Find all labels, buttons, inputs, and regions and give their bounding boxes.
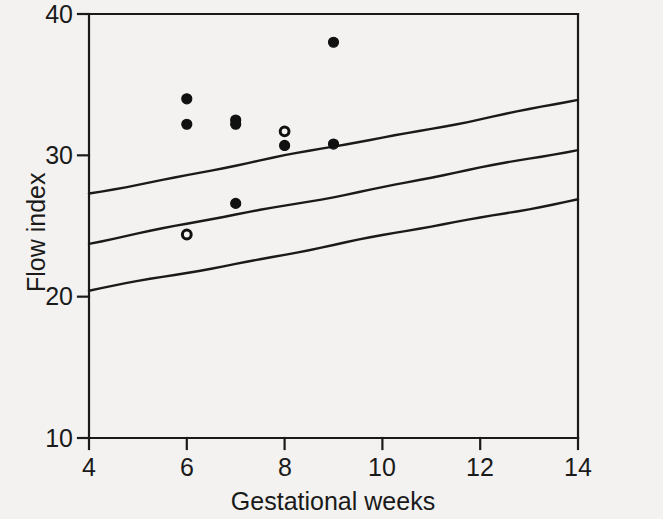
plot-canvas: [0, 0, 663, 519]
data-point-filled: [329, 139, 339, 149]
data-point-filled: [231, 119, 241, 129]
data-point-filled: [182, 119, 192, 129]
x-tick-label-12: 12: [460, 455, 500, 480]
y-tick-label-10: 10: [33, 426, 73, 451]
reference-line-group: [89, 100, 578, 291]
x-axis-title: Gestational weeks: [183, 489, 483, 514]
data-point-filled: [280, 140, 290, 150]
x-tick-label-6: 6: [167, 455, 207, 480]
data-point-open: [182, 230, 191, 239]
reference-line: [89, 150, 578, 244]
data-point-filled: [231, 198, 241, 208]
y-tick-label-40: 40: [33, 2, 73, 27]
y-tick-label-30: 30: [33, 143, 73, 168]
data-point-filled: [182, 94, 192, 104]
data-point-filled: [329, 37, 339, 47]
x-tick-label-14: 14: [558, 455, 598, 480]
x-tick-label-8: 8: [265, 455, 305, 480]
data-point-open: [280, 127, 289, 136]
scatter-plot-figure: 40 30 20 10 4 6 8 10 12 14 Flow index Ge…: [0, 0, 663, 519]
x-axis-ticks: [89, 438, 578, 449]
axes-frame: [89, 14, 578, 438]
reference-line: [89, 199, 578, 290]
y-axis-ticks: [78, 14, 89, 438]
y-axis-title: Flow index: [24, 173, 49, 293]
x-tick-label-4: 4: [69, 455, 109, 480]
x-tick-label-10: 10: [362, 455, 402, 480]
